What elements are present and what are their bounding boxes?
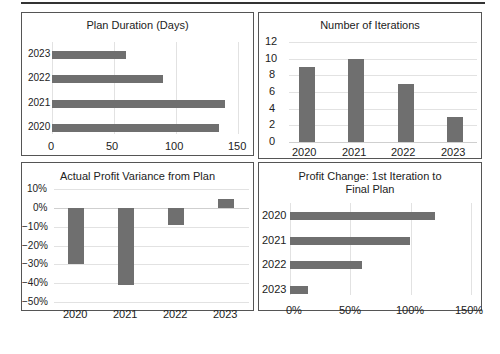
- category-label: 2022: [391, 146, 415, 158]
- chart-number-of-iterations: Number of Iterations 12 10 8 6 4 2 0 202…: [258, 12, 482, 159]
- gridline: [238, 42, 239, 134]
- y-tick: 4: [269, 102, 275, 114]
- gridline: [471, 203, 472, 295]
- gridline: [289, 75, 477, 76]
- y-tick: −30%: [22, 258, 48, 269]
- bar-2023: [52, 51, 126, 59]
- category-label: 2022: [28, 72, 50, 83]
- x-tick: 150: [228, 140, 246, 152]
- category-label: 2022: [262, 258, 286, 270]
- category-label: 2021: [262, 234, 286, 246]
- bar-2022: [290, 261, 362, 269]
- y-tick: −40%: [22, 277, 48, 288]
- y-tick: 6: [269, 85, 275, 97]
- bar-2020: [52, 124, 219, 132]
- x-tick: 0%: [286, 304, 302, 316]
- category-label: 2020: [292, 146, 316, 158]
- x-tick: 100%: [396, 304, 424, 316]
- bar-2020: [290, 212, 435, 220]
- chart-plan-duration: Plan Duration (Days) 2023 2022 2021 2020…: [21, 12, 254, 156]
- category-label: 2021: [28, 97, 50, 108]
- x-tick: 0: [48, 140, 54, 152]
- gridline: [289, 59, 477, 60]
- category-label: 2023: [262, 283, 286, 295]
- top-rule: [21, 2, 485, 4]
- gridline: [289, 42, 477, 43]
- category-label: 2023: [441, 146, 465, 158]
- chart-title-line-1: Profit Change: 1st Iteration to: [259, 170, 481, 183]
- y-tick: 8: [269, 68, 275, 80]
- y-tick: 10: [265, 52, 277, 64]
- bar-2022: [168, 208, 184, 225]
- y-tick: 2: [269, 118, 275, 130]
- chart-profit-change: Profit Change: 1st Iteration to Final Pl…: [258, 162, 482, 311]
- gridline: [54, 264, 249, 265]
- gridline: [54, 302, 249, 303]
- x-tick: 50%: [339, 304, 361, 316]
- category-label: 2022: [163, 308, 187, 320]
- bar-2021: [118, 208, 134, 285]
- y-tick: 0: [269, 135, 275, 147]
- axis-baseline: [289, 142, 477, 143]
- gridline: [54, 189, 249, 190]
- y-tick: 0%: [33, 202, 47, 213]
- x-tick: 150%: [455, 304, 483, 316]
- bar-2021: [348, 59, 364, 142]
- bar-2022: [52, 75, 163, 83]
- x-tick: 100: [165, 140, 183, 152]
- bar-2021: [290, 237, 410, 245]
- gridline: [289, 109, 477, 110]
- bar-2022: [398, 84, 414, 142]
- chart-title: Number of Iterations: [259, 19, 481, 32]
- gridline: [54, 283, 249, 284]
- category-label: 2020: [63, 308, 87, 320]
- category-label: 2023: [28, 48, 50, 59]
- bar-2023: [218, 199, 234, 208]
- chart-actual-profit-variance: Actual Profit Variance from Plan 10% 0% …: [21, 162, 254, 311]
- y-tick: −50%: [22, 296, 48, 307]
- category-label: 2021: [113, 308, 137, 320]
- gridline: [176, 42, 177, 134]
- y-tick: 12: [265, 35, 277, 47]
- y-tick: −20%: [22, 240, 48, 251]
- category-label: 2020: [28, 121, 50, 132]
- chart-title: Profit Change: 1st Iteration to Final Pl…: [259, 170, 481, 196]
- chart-title: Plan Duration (Days): [22, 19, 253, 32]
- bar-2021: [52, 100, 225, 108]
- gridline: [289, 92, 477, 93]
- bar-2023: [290, 286, 308, 294]
- y-tick: −10%: [22, 221, 48, 232]
- bar-2020: [68, 208, 84, 264]
- category-label: 2023: [213, 308, 237, 320]
- category-label: 2020: [262, 209, 286, 221]
- chart-title-line-2: Final Plan: [259, 183, 481, 196]
- y-tick: 10%: [27, 183, 47, 194]
- category-label: 2021: [342, 146, 366, 158]
- chart-title: Actual Profit Variance from Plan: [22, 170, 253, 183]
- x-tick: 50: [106, 140, 118, 152]
- bar-2023: [447, 117, 463, 142]
- bar-2020: [299, 67, 315, 142]
